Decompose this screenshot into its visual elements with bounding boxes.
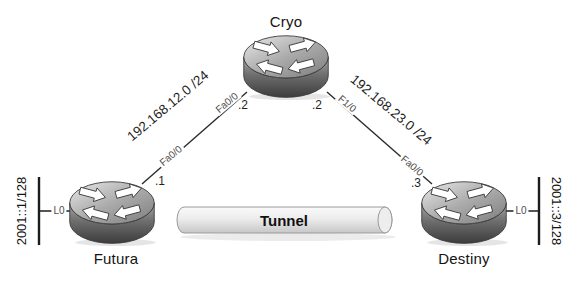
ip-suffix-destiny: .3: [411, 177, 421, 189]
network-diagram: Cryo Futura Destiny Tunnel 192.168.12.0 …: [0, 0, 574, 286]
ip-suffix-cryo-right: .2: [312, 99, 322, 111]
ip-suffix-cryo-left: .2: [238, 99, 248, 111]
ip-suffix-futura: .1: [155, 175, 165, 187]
router-icon-destiny: [422, 181, 508, 246]
router-icon-futura: [70, 181, 156, 246]
loopback-if-label-futura: L0: [51, 206, 66, 216]
router-icon-cryo: [244, 35, 330, 100]
ipv6-address-destiny: 2001::3/128: [550, 177, 563, 246]
router-name-destiny: Destiny: [438, 251, 489, 266]
router-name-futura: Futura: [94, 251, 139, 266]
ipv6-address-futura: 2001::1/128: [15, 177, 28, 246]
router-name-cryo: Cryo: [270, 14, 302, 29]
tunnel-label: Tunnel: [260, 213, 308, 228]
loopback-if-label-destiny: L0: [513, 206, 528, 216]
diagram-canvas: [0, 0, 574, 286]
